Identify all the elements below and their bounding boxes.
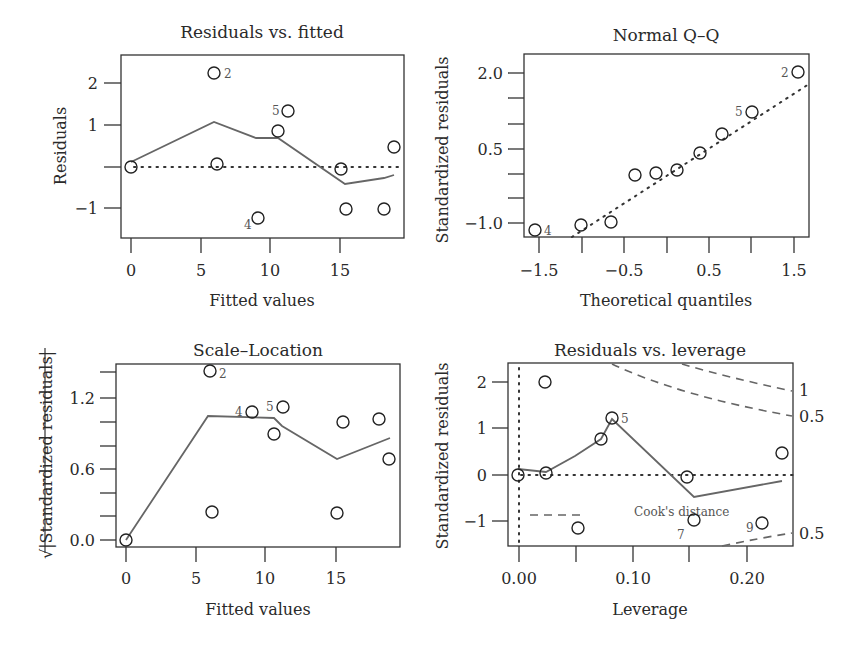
plot-frame [116,364,400,547]
data-point [268,428,280,440]
point-label: 4 [244,218,252,232]
data-point [272,125,284,137]
y-axis-label: √|Standardized residuals| [37,351,56,559]
data-point [246,406,258,418]
point-label: 2 [781,66,789,80]
data-point [575,219,587,231]
data-point [388,141,400,153]
data-points [120,365,395,546]
data-point [716,128,728,140]
data-point [756,517,768,529]
cooks-distance-label: Cook's distance [634,505,729,519]
data-point [282,105,294,117]
data-point [605,216,617,228]
panel-residuals-vs-leverage: Residuals vs. leverage 2 1 0 −1 Standard… [433,340,824,619]
data-point [277,401,289,413]
x-axis-label: Fitted values [209,291,315,310]
y-axis-label: Residuals [51,107,70,185]
data-point [206,506,218,518]
y-axis-label: Standardized residuals [433,362,452,549]
x-tick-label: 0 [121,569,131,588]
x-tick-label: 5 [191,569,201,588]
point-label: 5 [621,412,629,426]
y-tick-label: −1 [463,512,487,531]
panel-title: Scale–Location [193,340,323,360]
data-point [383,453,395,465]
data-points [529,66,804,236]
panel-title: Normal Q–Q [613,25,720,45]
x-tick-label: 0.10 [615,569,651,588]
panel-scale-location: Scale–Location 1.2 0.6 0.0 √|Standardize… [37,340,400,619]
y-axis-label: Standardized residuals [433,56,452,243]
point-label: 2 [219,367,227,381]
x-tick-label: 1.5 [781,261,806,280]
data-point [335,163,347,175]
y-tick-label: 0 [477,466,487,485]
y-tick-label: −1 [74,199,98,218]
data-point [373,413,385,425]
diagnostic-plots-figure: Residuals vs. fitted 2 1 −1 Residuals 0 … [0,0,854,646]
x-tick-label: 5 [196,261,206,280]
data-point [539,376,551,388]
x-axis: 0 5 10 15 [121,547,346,588]
x-axis: 0.00 0.10 0.20 [501,546,765,588]
data-point [211,158,223,170]
cooks-contour-1-upper [682,364,792,391]
panel-residuals-vs-fitted: Residuals vs. fitted 2 1 −1 Residuals 0 … [51,22,404,310]
point-label: 7 [677,528,685,542]
data-point [378,203,390,215]
x-tick-label: 0 [126,261,136,280]
smooth-trend-line [126,416,390,540]
cook-level-label: 0.5 [799,524,824,543]
x-tick-label: 0.20 [729,569,765,588]
data-point [340,203,352,215]
y-axis: 2 1 −1 [74,74,121,218]
y-tick-label: 1 [477,419,487,438]
x-axis: −1.5 −0.5 0.5 1.5 [520,237,807,280]
data-point [529,224,541,236]
smooth-trend-line [518,419,782,497]
y-tick-label: 1 [88,116,98,135]
x-tick-label: 0.5 [696,261,721,280]
data-point [694,147,706,159]
data-point [650,167,662,179]
y-tick-label: 0.6 [70,460,95,479]
cook-level-label: 1 [799,381,809,400]
y-axis: 2.0 0.5 −1.0 [464,64,524,233]
y-tick-label: −1.0 [464,214,503,233]
data-point [681,471,693,483]
x-tick-label: 10 [255,569,275,588]
cooks-contour-0.5-upper [612,364,792,416]
x-tick-label: 10 [260,261,280,280]
y-tick-label: 2 [88,74,98,93]
point-label: 5 [735,105,743,119]
x-tick-label: 0.00 [501,569,537,588]
y-tick-label: 0.5 [478,140,503,159]
cook-level-label: 0.5 [799,407,824,426]
data-point [331,507,343,519]
point-label: 2 [224,67,232,81]
x-tick-label: 15 [326,569,346,588]
panel-normal-qq: Normal Q–Q 2.0 0.5 −1.0 Standardized res… [433,25,809,310]
panel-title: Residuals vs. leverage [554,340,746,360]
data-point [792,66,804,78]
point-label: 9 [746,521,754,535]
data-point [572,522,584,534]
y-axis: 2 1 0 −1 [463,373,508,531]
data-point [204,365,216,377]
data-point [629,169,641,181]
point-label: 5 [266,400,274,414]
data-point [776,447,788,459]
x-tick-label: −1.5 [520,261,559,280]
data-point [671,164,683,176]
x-tick-label: 15 [330,261,350,280]
y-tick-label: 2 [477,373,487,392]
x-tick-label: −0.5 [605,261,644,280]
y-tick-label: 2.0 [478,64,503,83]
data-point [540,467,552,479]
x-axis-label: Leverage [612,600,688,619]
x-axis: 0 5 10 15 [126,238,350,280]
y-axis: 1.2 0.6 0.0 [70,372,116,550]
cooks-contour-0.5-lower [722,533,792,546]
qq-reference-line [572,84,809,237]
